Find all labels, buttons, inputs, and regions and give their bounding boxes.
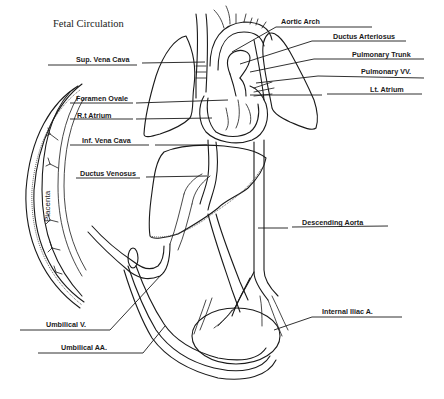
fetal-circulation-diagram: Fetal Circulation [0,0,444,399]
label-inf-vena-cava: Inf. Vena Cava [82,136,132,145]
diagram-title: Fetal Circulation [53,18,125,29]
label-rt-atrium: R.t Atrium [77,111,111,120]
heart [196,6,274,143]
label-lt-atrium: Lt. Atrium [370,85,404,94]
label-umbilical-v: Umbilical V. [46,320,86,329]
diagram-svg: Fetal Circulation [0,0,444,399]
label-descending-aorta: Descending Aorta [302,218,364,227]
label-foramen-ovale: Foramen Ovale [76,94,128,103]
right-lung [144,36,195,137]
label-umbilical-aa: Umbilical AA. [61,343,107,352]
inferior-vena-cava [200,140,248,312]
umbilical-vessels [88,226,288,379]
label-internal-iliac-a: Internal Iliac A. [322,307,373,316]
label-sup-vena-cava: Sup. Vena Cava [76,55,131,64]
liver [149,145,266,250]
label-aortic-arch: Aortic Arch [281,17,320,26]
placenta-label: Placenta [43,190,52,222]
label-pulmonary-trunk: Pulmonary Trunk [352,50,411,59]
label-ductus-arteriosus: Ductus Arteriosus [333,32,395,41]
label-pulmonary-vv: Pulmonary VV. [361,67,411,76]
label-ductus-venosus: Ductus Venosus [80,169,136,178]
